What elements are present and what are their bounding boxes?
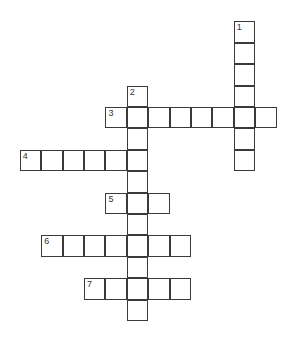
crossword-cell[interactable]: [127, 193, 148, 215]
crossword-cell[interactable]: [105, 150, 126, 172]
clue-number: 1: [237, 22, 242, 32]
clue-number: 4: [23, 151, 28, 161]
crossword-cell[interactable]: [234, 150, 255, 172]
crossword-cell[interactable]: [84, 150, 105, 172]
crossword-cell[interactable]: [170, 235, 191, 257]
crossword-cell[interactable]: [105, 278, 126, 300]
crossword-cell[interactable]: [127, 107, 148, 129]
crossword-cell[interactable]: [234, 107, 255, 129]
crossword-cell[interactable]: [234, 128, 255, 150]
crossword-cell[interactable]: [127, 214, 148, 236]
crossword-cell[interactable]: 7: [84, 278, 105, 300]
clue-number: 3: [108, 108, 113, 118]
crossword-cell[interactable]: [127, 278, 148, 300]
crossword-cell[interactable]: 2: [127, 86, 148, 108]
crossword-cell[interactable]: [255, 107, 276, 129]
clue-number: 5: [108, 194, 113, 204]
crossword-cell[interactable]: [127, 257, 148, 279]
crossword-cell[interactable]: [127, 171, 148, 193]
crossword-cell[interactable]: 3: [105, 107, 126, 129]
crossword-cell[interactable]: [127, 235, 148, 257]
crossword-cell[interactable]: [148, 278, 169, 300]
crossword-cell[interactable]: [127, 300, 148, 322]
crossword-cell[interactable]: [63, 150, 84, 172]
crossword-cell[interactable]: [148, 107, 169, 129]
crossword-cell[interactable]: [191, 107, 212, 129]
crossword-cell[interactable]: 1: [234, 21, 255, 43]
crossword-cell[interactable]: [105, 235, 126, 257]
clue-number: 2: [130, 87, 135, 97]
crossword-cell[interactable]: [170, 278, 191, 300]
clue-number: 6: [44, 236, 49, 246]
crossword-cell[interactable]: [234, 64, 255, 86]
crossword-cell[interactable]: [148, 235, 169, 257]
crossword-cell[interactable]: [63, 235, 84, 257]
crossword-cell[interactable]: 4: [20, 150, 41, 172]
crossword-cell[interactable]: [212, 107, 233, 129]
crossword-cell[interactable]: [127, 128, 148, 150]
crossword-cell[interactable]: 6: [41, 235, 62, 257]
crossword-cell[interactable]: [41, 150, 62, 172]
crossword-cell[interactable]: [127, 150, 148, 172]
crossword-cell[interactable]: [148, 193, 169, 215]
crossword-cell[interactable]: [234, 43, 255, 65]
crossword-cell[interactable]: [234, 86, 255, 108]
crossword-cell[interactable]: 5: [105, 193, 126, 215]
crossword-cell[interactable]: [84, 235, 105, 257]
crossword-cell[interactable]: [170, 107, 191, 129]
clue-number: 7: [87, 279, 92, 289]
